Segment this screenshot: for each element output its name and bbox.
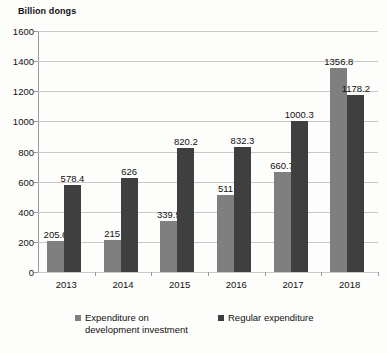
y-axis-tick-mark xyxy=(34,182,38,183)
x-axis-label-2015: 2015 xyxy=(169,279,190,290)
bar-2014-series2 xyxy=(121,178,138,272)
bar-value-label: 1356.8 xyxy=(324,56,353,67)
bar-value-label: 1000.3 xyxy=(285,109,314,120)
bar-value-label: 832.3 xyxy=(231,135,255,146)
legend-swatch-icon xyxy=(218,315,224,321)
y-axis-tick-mark xyxy=(34,31,38,32)
bar-2018-series2 xyxy=(347,95,364,272)
y-axis-tick-label: 800 xyxy=(4,146,34,157)
y-axis-tick-label: 1400 xyxy=(4,56,34,67)
x-axis-label-2018: 2018 xyxy=(339,279,360,290)
y-axis-tick-mark xyxy=(34,61,38,62)
x-axis-label-2016: 2016 xyxy=(226,279,247,290)
bar-2017-series1 xyxy=(274,172,291,272)
y-axis-tick-label: 1200 xyxy=(4,86,34,97)
y-axis-tick-label: 400 xyxy=(4,206,34,217)
x-axis-tick-mark xyxy=(95,272,96,276)
bar-value-label: 626 xyxy=(121,166,137,177)
x-axis-tick-mark xyxy=(321,272,322,276)
y-axis-tick-mark xyxy=(34,152,38,153)
y-axis-tick-mark xyxy=(34,121,38,122)
legend-item-2[interactable]: Regular expenditure xyxy=(218,312,314,324)
bar-value-label: 215 xyxy=(104,228,120,239)
legend-label: Regular expenditure xyxy=(228,312,314,324)
bar-2017-series2 xyxy=(291,121,308,272)
x-axis-label-2014: 2014 xyxy=(112,279,133,290)
bar-group: 339.5820.2 xyxy=(151,31,208,272)
bar-2016-series1 xyxy=(217,195,234,272)
legend-label: Expenditure on development investment xyxy=(85,312,193,335)
bar-2013-series1 xyxy=(47,241,64,272)
bar-value-label: 578.4 xyxy=(61,173,85,184)
bar-chart: Billion dongs 16001400120010008006004002… xyxy=(0,0,387,353)
chart-legend: Expenditure on development investmentReg… xyxy=(0,310,387,350)
y-axis-tick-mark xyxy=(34,212,38,213)
y-axis-tick-mark xyxy=(34,91,38,92)
legend-item-1[interactable]: Expenditure on development investment xyxy=(75,312,193,335)
y-axis-tick-label: 0 xyxy=(4,267,34,278)
plot-area: 205.6578.4215626339.5820.2511832.3660.71… xyxy=(38,31,378,272)
bar-group: 511832.3 xyxy=(208,31,265,272)
x-axis-label-2013: 2013 xyxy=(56,279,77,290)
bar-group: 1356.81178.2 xyxy=(321,31,378,272)
y-axis-tick-mark xyxy=(34,272,38,273)
y-axis-tick-mark xyxy=(34,242,38,243)
chart-axis-title: Billion dongs xyxy=(18,6,76,16)
bar-2015-series2 xyxy=(177,148,194,272)
legend-swatch-icon xyxy=(75,315,81,321)
bar-group: 215626 xyxy=(95,31,152,272)
bar-group: 205.6578.4 xyxy=(38,31,95,272)
y-axis-tick-label: 600 xyxy=(4,176,34,187)
x-axis-tick-mark xyxy=(151,272,152,276)
bar-value-label: 1178.2 xyxy=(342,83,370,94)
y-axis-tick-label: 200 xyxy=(4,236,34,247)
bar-2015-series1 xyxy=(160,221,177,272)
x-axis-label-2017: 2017 xyxy=(282,279,303,290)
bar-group: 660.71000.3 xyxy=(265,31,322,272)
bar-value-label: 511 xyxy=(218,183,233,194)
y-axis-tick-labels: 16001400120010008006004002000 xyxy=(0,31,34,272)
y-axis-tick-label: 1600 xyxy=(4,26,34,37)
x-axis-tick-mark xyxy=(208,272,209,276)
bar-2014-series1 xyxy=(104,240,121,272)
bar-2016-series2 xyxy=(234,147,251,272)
bar-value-label: 820.2 xyxy=(174,136,198,147)
bar-2013-series2 xyxy=(64,185,81,272)
bar-2018-series1 xyxy=(330,68,347,272)
x-axis-tick-mark xyxy=(265,272,266,276)
x-axis-tick-mark xyxy=(378,272,379,276)
y-axis-tick-label: 1000 xyxy=(4,116,34,127)
